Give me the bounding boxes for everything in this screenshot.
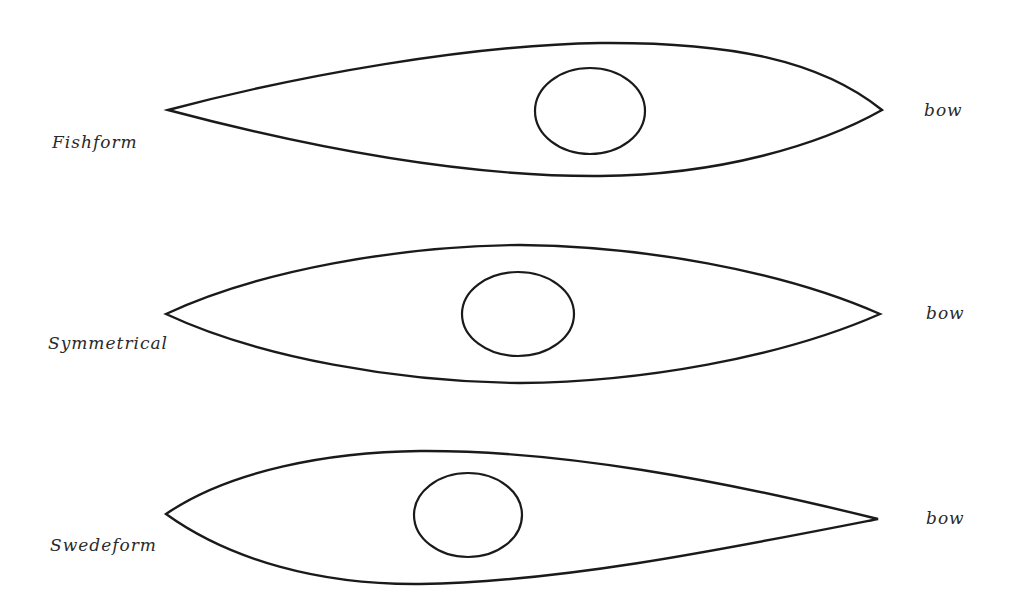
symmetrical-hull-group [166, 245, 880, 383]
symmetrical-bow-label: bow [926, 303, 965, 323]
fishform-hull-group [168, 43, 882, 176]
hull-shapes-svg [0, 0, 1023, 613]
swedeform-hull-group [166, 451, 878, 584]
symmetrical-label: Symmetrical [48, 333, 168, 353]
swedeform-bow-label: bow [926, 508, 965, 528]
fishform-label: Fishform [52, 132, 138, 152]
fishform-cockpit [535, 68, 645, 154]
symmetrical-hull-outline [166, 245, 880, 383]
fishform-hull-outline [168, 43, 882, 176]
symmetrical-cockpit [462, 272, 574, 356]
fishform-bow-label: bow [924, 100, 963, 120]
hull-shapes-diagram: Fishform bow Symmetrical bow Swedeform b… [0, 0, 1023, 613]
swedeform-label: Swedeform [50, 535, 157, 555]
swedeform-cockpit [414, 473, 522, 557]
